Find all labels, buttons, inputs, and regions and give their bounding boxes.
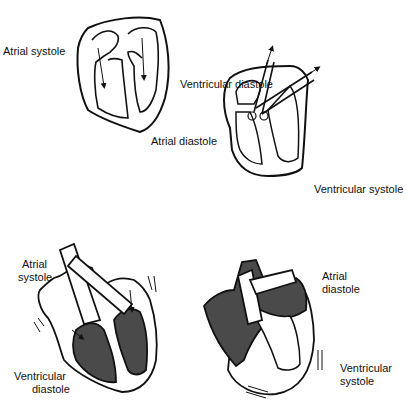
- label-ventricular-bottom-left-1: Ventricular: [14, 370, 66, 383]
- label-atrial-systole-top: Atrial systole: [3, 45, 65, 58]
- label-ventricular-bottom-right-2: systole: [340, 375, 374, 388]
- label-atrial-bottom-right-2: diastole: [322, 283, 360, 296]
- heart-bottom-right: [204, 260, 322, 398]
- label-ventricular-diastole-top: Ventricular diastole: [180, 78, 273, 91]
- label-atrial-diastole-top: Atrial diastole: [151, 135, 217, 148]
- heart-top-right: [224, 48, 318, 176]
- label-ventricular-bottom-left-2: diastole: [32, 383, 70, 396]
- label-ventricular-bottom-right-1: Ventricular: [340, 362, 392, 375]
- label-atrial-bottom-left-1: Atrial: [22, 258, 47, 271]
- label-ventricular-systole-top: Ventricular systole: [314, 183, 403, 196]
- label-atrial-bottom-left-2: systole: [18, 271, 52, 284]
- label-atrial-bottom-right-1: Atrial: [322, 270, 347, 283]
- heart-top-left: [77, 18, 168, 132]
- heart-cycle-illustrations: [0, 0, 407, 416]
